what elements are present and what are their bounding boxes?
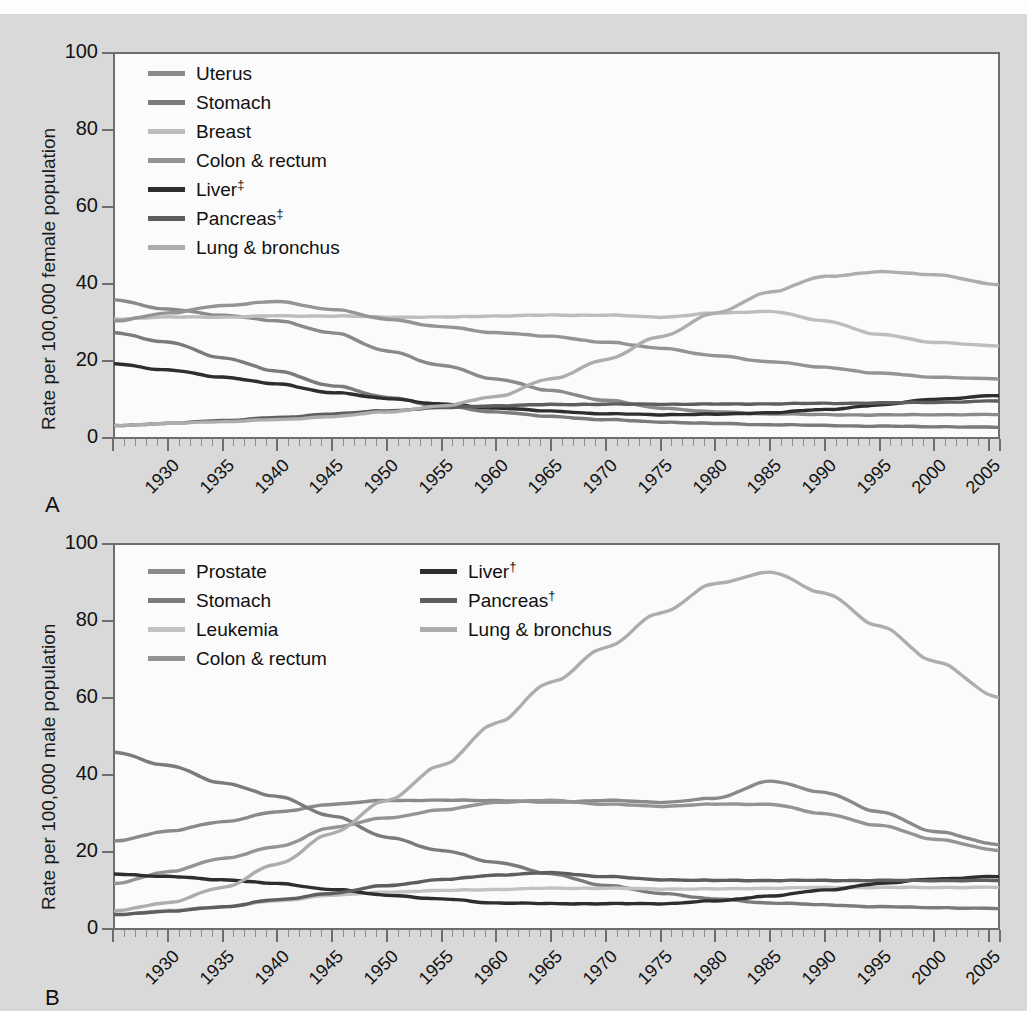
x-axis-minor-tick	[573, 930, 574, 937]
x-axis-minor-tick	[255, 930, 256, 937]
series-line	[113, 781, 1000, 845]
x-axis-minor-tick	[321, 930, 322, 937]
legend-line-swatch	[420, 598, 457, 603]
x-axis-minor-tick	[814, 930, 815, 937]
x-axis-minor-tick	[233, 930, 234, 937]
x-axis-minor-tick	[584, 930, 585, 937]
x-axis-minor-tick	[682, 930, 683, 937]
x-axis-minor-tick	[847, 930, 848, 937]
x-axis-minor-tick	[540, 930, 541, 937]
panel-b-legend-item: Prostate	[148, 560, 267, 582]
x-axis-minor-tick	[803, 930, 804, 937]
x-axis-minor-tick	[288, 930, 289, 937]
panel-b-legend-item: Leukemia	[148, 618, 278, 640]
legend-label: Pancreas†	[468, 589, 556, 610]
x-axis-minor-tick	[376, 930, 377, 937]
x-axis-minor-tick	[792, 930, 793, 937]
x-axis-minor-tick	[945, 930, 946, 937]
x-axis-minor-tick	[923, 930, 924, 937]
x-axis-major-tick	[276, 930, 278, 942]
x-axis-major-tick	[879, 930, 881, 942]
x-axis-minor-tick	[617, 930, 618, 937]
x-axis-minor-tick	[299, 930, 300, 937]
legend-label: Leukemia	[196, 620, 278, 639]
x-axis-minor-tick	[901, 930, 902, 937]
legend-label: Stomach	[196, 591, 271, 610]
legend-line-swatch	[420, 569, 457, 574]
x-axis-minor-tick	[650, 930, 651, 937]
x-axis-major-tick	[999, 930, 1001, 942]
x-axis-minor-tick	[726, 930, 727, 937]
x-axis-major-tick	[386, 930, 388, 942]
legend-label: Colon & rectum	[196, 649, 327, 668]
x-axis-minor-tick	[244, 930, 245, 937]
x-axis-minor-tick	[431, 930, 432, 937]
panel-b: Rate per 100,000 male population 100 80 …	[0, 0, 1027, 1011]
x-axis-minor-tick	[956, 930, 957, 937]
x-axis-major-tick	[441, 930, 443, 942]
x-axis-major-tick	[495, 930, 497, 942]
legend-label: Prostate	[196, 562, 267, 581]
legend-label: Liver†	[468, 560, 516, 581]
x-axis-minor-tick	[912, 930, 913, 937]
x-axis-minor-tick	[759, 930, 760, 937]
panel-b-legend-item: Pancreas†	[420, 589, 556, 611]
x-axis-minor-tick	[354, 930, 355, 937]
x-axis-major-tick	[222, 930, 224, 942]
x-axis-major-tick	[550, 930, 552, 942]
x-axis-minor-tick	[704, 930, 705, 937]
legend-line-swatch	[148, 569, 185, 574]
x-axis-major-tick	[769, 930, 771, 942]
legend-footnote-marker: †	[548, 588, 555, 603]
x-axis-minor-tick	[201, 930, 202, 937]
x-axis-minor-tick	[212, 930, 213, 937]
x-axis-minor-tick	[562, 930, 563, 937]
x-axis-minor-tick	[639, 930, 640, 937]
panel-b-legend-item: Colon & rectum	[148, 647, 327, 669]
x-axis-minor-tick	[529, 930, 530, 937]
x-axis-minor-tick	[190, 930, 191, 937]
panel-b-legend-item: Liver†	[420, 560, 516, 582]
x-axis-minor-tick	[343, 930, 344, 937]
x-axis-minor-tick	[737, 930, 738, 937]
x-axis-minor-tick	[781, 930, 782, 937]
series-line	[113, 887, 1000, 914]
x-axis-minor-tick	[748, 930, 749, 937]
legend-footnote-marker: †	[509, 559, 516, 574]
x-axis-minor-tick	[967, 930, 968, 937]
x-axis-minor-tick	[124, 930, 125, 937]
x-axis-major-tick	[112, 930, 114, 942]
x-axis-minor-tick	[135, 930, 136, 937]
x-axis-minor-tick	[628, 930, 629, 937]
x-axis-minor-tick	[693, 930, 694, 937]
x-axis-minor-tick	[474, 930, 475, 937]
legend-label: Lung & bronchus	[468, 620, 612, 639]
panel-b-letter: B	[45, 985, 60, 1011]
x-axis-minor-tick	[858, 930, 859, 937]
x-axis-minor-tick	[463, 930, 464, 937]
x-axis-minor-tick	[507, 930, 508, 937]
x-axis-major-tick	[331, 930, 333, 942]
x-axis-minor-tick	[365, 930, 366, 937]
x-axis-minor-tick	[595, 930, 596, 937]
x-axis-minor-tick	[179, 930, 180, 937]
x-axis-major-tick	[660, 930, 662, 942]
x-axis-minor-tick	[890, 930, 891, 937]
x-axis-minor-tick	[869, 930, 870, 937]
x-axis-minor-tick	[146, 930, 147, 937]
x-axis-minor-tick	[452, 930, 453, 937]
x-axis-major-tick	[824, 930, 826, 942]
x-axis-major-tick	[167, 930, 169, 942]
x-axis-minor-tick	[836, 930, 837, 937]
panel-b-legend-item: Stomach	[148, 589, 271, 611]
x-axis-major-tick	[605, 930, 607, 942]
x-axis-minor-tick	[518, 930, 519, 937]
x-axis-major-tick	[988, 930, 990, 942]
legend-line-swatch	[420, 627, 457, 632]
x-axis-major-tick	[933, 930, 935, 942]
x-axis-minor-tick	[485, 930, 486, 937]
panel-b-data-lines	[0, 0, 1027, 1011]
legend-line-swatch	[148, 656, 185, 661]
x-axis-major-tick	[714, 930, 716, 942]
x-axis-minor-tick	[420, 930, 421, 937]
